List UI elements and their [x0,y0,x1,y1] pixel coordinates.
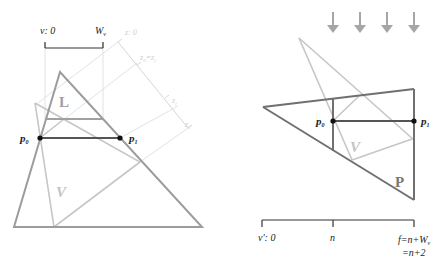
right-p1-point [411,118,416,123]
left-p0-point [37,135,42,140]
z-axis [118,39,192,128]
left-p0-label: p0 [19,132,29,145]
diagram-canvas: z: 0 z0=zf zf z1 v: 0 Wv p0 p1 L V [0,0,441,269]
left-p1-label: p1 [128,132,138,145]
right-region-V-label: V [350,139,362,155]
z-label-z1: z1 [184,120,191,130]
left-region-L-label: L [59,94,69,110]
v-axis-end-label: Wv [95,25,106,37]
right-p1-label: p1 [420,115,430,128]
right-p0-label: p0 [315,115,325,128]
z-axis-labels: z: 0 z0=zf zf z1 [124,28,191,130]
light-direction-arrows [327,12,420,33]
z-label-zf: zf [171,96,177,106]
right-projection-polygon [263,89,414,200]
left-diagram: z: 0 z0=zf zf z1 v: 0 Wv p0 p1 L V [14,25,202,227]
arrow-icon [354,12,366,33]
right-p0-point [330,118,335,123]
v-axis-start-label: v: 0 [40,25,55,36]
axis-far-label: f=n+Wv [398,234,431,246]
left-region-V-label: V [56,184,68,200]
right-diagram: p0 p1 V P v': 0 n f=n+Wv =n+2 [258,12,431,258]
left-view-triangle [35,103,140,227]
arrow-icon [327,12,339,33]
arrow-icon [381,12,393,33]
v-axis-bracket [45,42,103,48]
axis-near-label: n [330,232,335,243]
right-depth-axis [262,220,414,227]
left-p1-point [117,135,122,140]
axis-start-label: v': 0 [258,232,275,243]
z-label-0: z: 0 [124,28,137,37]
right-region-P-label: P [395,174,404,190]
axis-far-value-label: =n+2 [402,247,426,258]
arrow-icon [408,12,420,33]
z-label-z0: z0=zf [139,53,156,63]
